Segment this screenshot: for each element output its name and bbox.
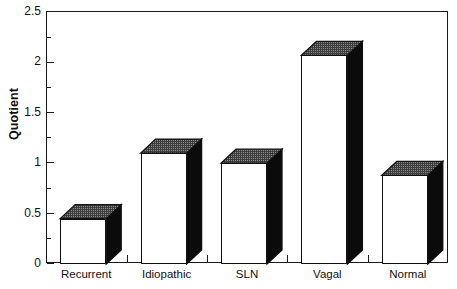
bar-front-face [382, 175, 428, 264]
y-tick-label: 0.5 [1, 207, 41, 219]
plot-area [46, 11, 448, 263]
bar-front-face [221, 163, 267, 264]
y-tick-label: 2 [1, 55, 41, 67]
bar-side-face [428, 161, 443, 264]
bar-front-face [301, 55, 347, 264]
y-tick-label: 2.5 [1, 5, 41, 17]
y-tick-label: 1 [1, 156, 41, 168]
y-tick-label: 1.5 [1, 106, 41, 118]
x-tick-label: Normal [348, 268, 457, 281]
bar-front-face [60, 219, 106, 264]
bar-front-face [141, 153, 187, 264]
bar-chart-figure: Quotient 00.511.522.5 RecurrentIdiopathi… [0, 0, 457, 289]
